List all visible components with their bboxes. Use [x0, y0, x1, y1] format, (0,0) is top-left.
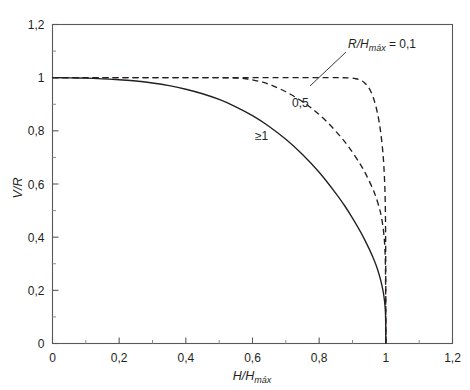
y-tick-label: 0,4	[28, 231, 45, 245]
x-tick-label: 1,2	[444, 351, 461, 365]
chart-svg: 00,20,40,60,811,2 00,20,40,60,811,2 R/Hm…	[0, 0, 470, 390]
y-tick-label: 0,2	[28, 284, 45, 298]
y-tick-label: 1	[38, 71, 45, 85]
y-tick-label: 1,2	[28, 18, 45, 32]
x-tick-label: 0	[49, 351, 56, 365]
curve-label-ge1: ≥1	[255, 129, 269, 143]
x-tick-label: 1	[382, 351, 389, 365]
chart-container: 00,20,40,60,811,2 00,20,40,60,811,2 R/Hm…	[0, 0, 470, 390]
y-axis-title: V/R	[11, 178, 25, 199]
x-tick-label: 0,8	[311, 351, 328, 365]
curve-label-05: 0,5	[292, 96, 309, 110]
x-tick-label: 0,4	[177, 351, 194, 365]
x-tick-label: 0,2	[111, 351, 128, 365]
x-tick-label: 0,6	[244, 351, 261, 365]
y-tick-label: 0,6	[28, 178, 45, 192]
y-tick-label: 0,8	[28, 124, 45, 138]
y-tick-label: 0	[38, 337, 45, 351]
chart-background	[0, 0, 470, 390]
